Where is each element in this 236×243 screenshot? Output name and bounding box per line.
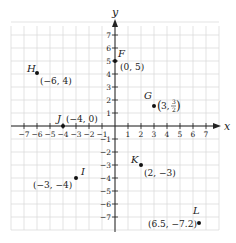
point-L-coord: (6.5, −7.2): [148, 219, 197, 229]
y-tick-label: 7: [106, 31, 111, 40]
axes: x y: [11, 6, 231, 232]
y-tick-label: −5: [100, 187, 111, 196]
point-I-coord: (−3, −4): [33, 180, 72, 190]
x-tick-label: −6: [31, 130, 42, 139]
point-G-coord-close: ): [176, 99, 181, 113]
x-tick-label: 3: [152, 130, 157, 139]
point-J-marker: [61, 124, 65, 128]
x-tick-label: 1: [126, 130, 131, 139]
coordinate-plane: x y −7−6−5−4−3−2−112345677654321−1−2−3−4…: [0, 0, 236, 243]
point-I-marker: [74, 176, 78, 180]
point-K-name: K: [130, 154, 139, 165]
x-tick-label: 6: [191, 130, 196, 139]
point-I-name: I: [80, 166, 86, 177]
point-G-name: G: [144, 90, 152, 101]
point-G: G ( 3, 3 2 ): [144, 90, 181, 113]
y-tick-label: −1: [100, 135, 111, 144]
point-K: K (2, −3): [130, 154, 176, 178]
x-tick-label: 7: [204, 130, 209, 139]
point-J-coord: (−4, 0): [66, 114, 98, 124]
point-F-marker: [113, 59, 117, 63]
y-tick-label: −3: [100, 161, 111, 170]
x-axis-label: x: [224, 120, 231, 133]
point-F: F (0, 5): [113, 48, 144, 72]
y-tick-label: 4: [106, 70, 111, 79]
y-axis-label: y: [111, 6, 119, 19]
x-tick-label: 4: [165, 130, 170, 139]
x-tick-label: −5: [44, 130, 55, 139]
x-tick-label: 2: [139, 130, 144, 139]
x-tick-label: −2: [83, 130, 94, 139]
point-H-name: H: [26, 63, 36, 74]
x-tick-label: −4: [57, 130, 68, 139]
point-H-coord: (−6, 4): [40, 76, 72, 86]
y-tick-label: −2: [100, 148, 111, 157]
x-tick-label: −7: [18, 130, 29, 139]
point-K-marker: [139, 163, 143, 167]
point-K-coord: (2, −3): [144, 168, 176, 178]
point-J-name: J: [55, 113, 62, 124]
y-tick-label: −7: [100, 213, 111, 222]
x-tick-label: −3: [70, 130, 81, 139]
point-G-coord-x: 3,: [161, 101, 170, 111]
y-tick-label: −4: [100, 174, 111, 183]
y-axis-arrow-icon: [112, 19, 118, 27]
y-tick-label: 1: [106, 109, 111, 118]
y-tick-label: 3: [106, 83, 111, 92]
y-tick-label: 6: [106, 44, 111, 53]
y-tick-label: 2: [106, 96, 111, 105]
point-L-name: L: [192, 205, 200, 216]
x-tick-label: 5: [178, 130, 183, 139]
point-H: H (−6, 4): [26, 63, 72, 86]
point-F-coord: (0, 5): [120, 62, 144, 72]
point-L-marker: [197, 221, 201, 225]
y-tick-label: −6: [100, 200, 111, 209]
x-axis-arrow-icon: [213, 123, 221, 129]
point-F-name: F: [117, 48, 126, 59]
y-tick-label: 5: [106, 57, 111, 66]
point-G-marker: [152, 104, 156, 108]
